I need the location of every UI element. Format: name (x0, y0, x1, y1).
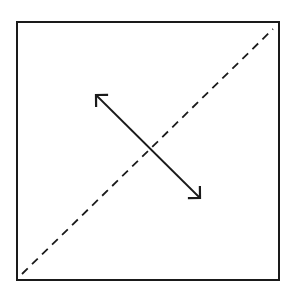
diagram-figure (0, 0, 298, 291)
arrow-shaft (96, 95, 200, 198)
diagram-canvas (0, 0, 298, 291)
dashed-diagonal-line (22, 29, 273, 274)
double-headed-arrow (96, 95, 200, 198)
